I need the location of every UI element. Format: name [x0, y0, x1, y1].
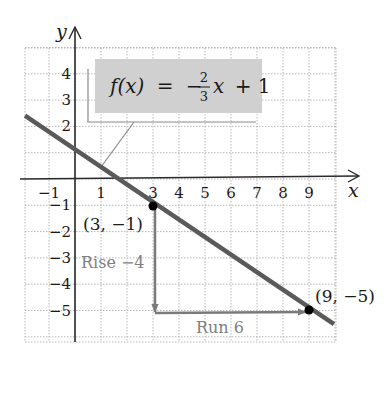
- point-label-9-neg5: (9, −5): [315, 286, 375, 306]
- x-tick-label: 4: [174, 184, 184, 202]
- x-tick-label: 6: [226, 184, 236, 202]
- x-tick-label: 5: [200, 184, 210, 202]
- y-axis-label: y: [55, 20, 67, 42]
- x-tick-label: 9: [304, 184, 314, 202]
- equation-tail: x + 1: [213, 74, 270, 98]
- graph-figure: f(x) = − 2 3 x + 1 x y −113456789 432−1−…: [0, 0, 388, 401]
- x-tick-label: 1: [96, 184, 106, 202]
- y-tick-label: 2: [61, 117, 71, 135]
- x-tick-labels: −113456789: [38, 184, 314, 202]
- run-arrow: [155, 312, 306, 313]
- y-tick-label: −3: [49, 249, 71, 267]
- y-tick-label: −2: [49, 223, 71, 241]
- run-label: Run 6: [196, 318, 244, 337]
- x-tick-label: 8: [278, 184, 288, 202]
- point-9-neg5: [305, 306, 314, 315]
- x-tick-label: 7: [252, 184, 262, 202]
- y-tick-label: 4: [61, 65, 71, 83]
- callout-leader: [101, 122, 134, 167]
- y-tick-label: −4: [49, 275, 71, 293]
- point-3-neg1: [149, 202, 158, 211]
- y-tick-label: 3: [61, 91, 71, 109]
- fraction-numerator: 2: [200, 70, 208, 85]
- fraction-denominator: 3: [200, 89, 208, 104]
- function-line: [25, 116, 334, 324]
- y-tick-label: −5: [49, 302, 71, 320]
- y-tick-label: −1: [49, 196, 71, 214]
- rise-label: Rise −4: [81, 253, 145, 272]
- coordinate-plane: f(x) = − 2 3 x + 1 x y −113456789 432−1−…: [0, 0, 388, 401]
- x-axis-label: x: [348, 179, 359, 201]
- point-label-3-neg1: (3, −1): [83, 214, 143, 234]
